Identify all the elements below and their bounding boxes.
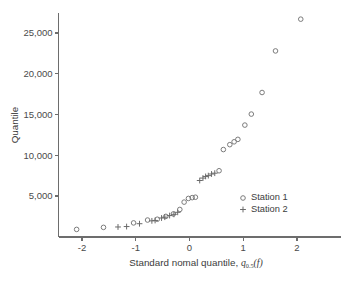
x-axis: -2-1012 [59, 237, 342, 253]
y-tick-label: 20,000 [23, 68, 52, 79]
x-axis-title: Standard nomal quantile, q0.5(f) [129, 257, 263, 269]
x-tick-label: 2 [294, 242, 299, 253]
data-point-plus [152, 218, 158, 224]
y-tick-label: 25,000 [23, 27, 52, 38]
x-tick-label: -2 [78, 242, 86, 253]
data-point-circle [131, 221, 136, 226]
data-point-circle [243, 123, 248, 128]
x-tick-label: 0 [187, 242, 192, 253]
x-axis-title-words: Standard nomal quantile, [129, 257, 241, 268]
data-point-circle [249, 112, 254, 117]
data-point-circle [178, 207, 183, 212]
legend-entry: Station 2 [240, 204, 288, 214]
data-point-plus [115, 224, 121, 230]
x-axis-title-argument: (f) [254, 257, 263, 269]
y-tick-label: 15,000 [23, 109, 52, 120]
data-point-plus [124, 224, 130, 230]
legend-marker-circle [241, 196, 246, 201]
series-station-2 [115, 170, 218, 230]
legend-label: Station 1 [251, 192, 288, 202]
data-point-circle [101, 225, 106, 230]
data-point-circle [236, 137, 241, 142]
chart-canvas: 5,00010,00015,00020,00025,000 -2-1012 St… [0, 0, 344, 281]
legend-marker-plus [240, 207, 246, 213]
data-point-circle [193, 195, 198, 200]
y-tick-label: 5,000 [29, 190, 53, 201]
x-tick-label: -1 [132, 242, 140, 253]
data-point-circle [228, 142, 233, 147]
data-point-plus [137, 221, 143, 227]
data-point-circle [273, 49, 278, 54]
data-point-circle [217, 168, 222, 173]
data-point-circle [182, 200, 187, 205]
legend-entry: Station 1 [241, 192, 288, 202]
chart-legend: Station 1Station 2 [240, 192, 288, 214]
y-axis-title: Quantile [9, 106, 20, 143]
quantile-plot-figure: 5,00010,00015,00020,00025,000 -2-1012 St… [0, 0, 344, 281]
data-point-circle [260, 90, 265, 95]
data-point-circle [74, 227, 79, 232]
data-point-circle [145, 218, 150, 223]
x-axis-title-subscript: 0.5 [246, 262, 254, 269]
legend-label: Station 2 [251, 204, 288, 214]
data-point-circle [298, 17, 303, 22]
data-point-circle [221, 147, 226, 152]
y-axis: 5,00010,00015,00020,00025,000 [23, 13, 58, 237]
x-tick-label: 1 [241, 242, 246, 253]
y-tick-label: 10,000 [23, 150, 52, 161]
